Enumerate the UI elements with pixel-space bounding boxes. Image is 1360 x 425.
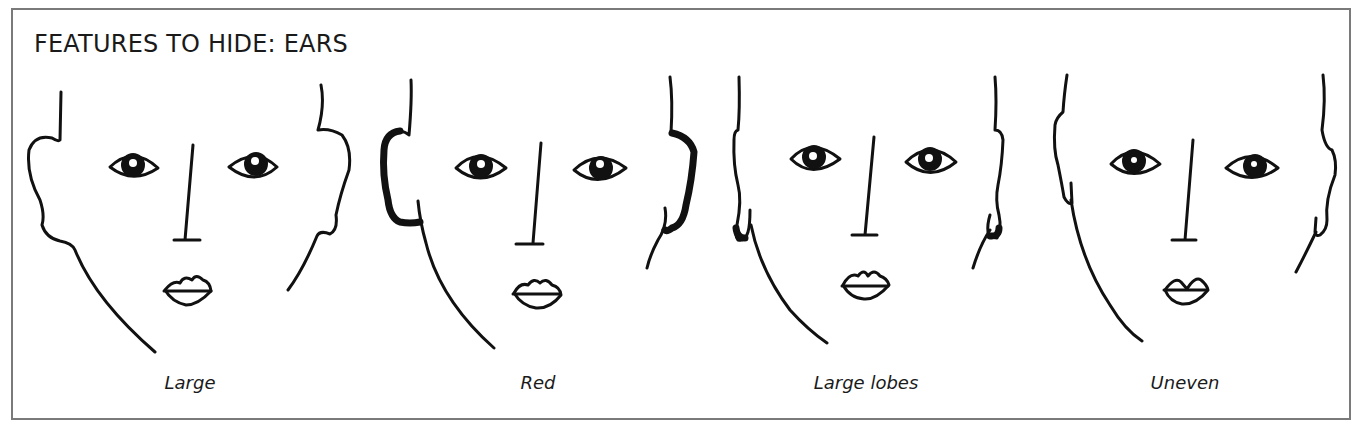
caption-red: Red bbox=[520, 372, 555, 393]
nose bbox=[516, 143, 543, 244]
nose bbox=[174, 145, 200, 240]
left-ear-lobe bbox=[734, 77, 750, 240]
faces-illustration bbox=[0, 0, 1360, 425]
left-ear-uneven bbox=[1054, 75, 1072, 203]
caption-large-lobes: Large lobes bbox=[814, 372, 919, 393]
right-ear-uneven bbox=[1315, 75, 1336, 236]
caption-uneven: Uneven bbox=[1151, 372, 1220, 393]
right-ear-red bbox=[665, 133, 694, 231]
face-large-ears bbox=[28, 85, 349, 352]
face-red-ears bbox=[384, 77, 695, 348]
face-large-lobes bbox=[734, 77, 1003, 343]
right-ear-lobe bbox=[988, 77, 1003, 238]
left-ear-red bbox=[384, 131, 421, 223]
left-ear-large bbox=[28, 92, 155, 352]
face-uneven bbox=[1054, 75, 1335, 341]
nose bbox=[852, 137, 877, 235]
right-ear-large bbox=[288, 85, 350, 290]
caption-large: Large bbox=[165, 372, 216, 393]
nose bbox=[1172, 140, 1196, 240]
lips bbox=[1165, 279, 1208, 304]
